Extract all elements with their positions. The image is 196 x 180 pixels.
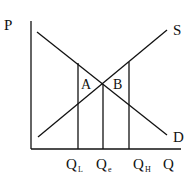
- supply-demand-diagram: P Q S D A B Q L Q e Q H: [0, 0, 196, 180]
- region-a-label: A: [81, 77, 92, 92]
- qh-main: Q: [133, 156, 144, 172]
- qe-sub: e: [108, 165, 112, 174]
- ql-sub: L: [78, 165, 83, 174]
- ql-main: Q: [66, 156, 77, 172]
- supply-label: S: [173, 22, 181, 38]
- qe-label: Q e: [96, 156, 112, 174]
- region-b-label: B: [113, 77, 122, 92]
- quantity-axis-label: Q: [163, 156, 174, 172]
- qh-label: Q H: [133, 156, 151, 174]
- qh-sub: H: [145, 165, 151, 174]
- demand-label: D: [173, 129, 184, 145]
- ql-label: Q L: [66, 156, 83, 174]
- qe-main: Q: [96, 156, 107, 172]
- price-axis-label: P: [4, 17, 12, 33]
